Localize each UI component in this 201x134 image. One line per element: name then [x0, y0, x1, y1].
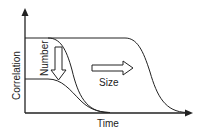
x-axis-arrowhead-icon	[185, 110, 193, 117]
diagram: Number Size Time Correlation	[0, 0, 201, 134]
size-right-arrow-icon	[92, 61, 133, 75]
number-down-arrow-icon	[51, 47, 66, 80]
curve-early-low	[25, 79, 110, 113]
x-axis-label: Time	[97, 118, 119, 129]
curve-early-high	[25, 38, 108, 113]
size-label: Size	[99, 77, 119, 88]
curve-late-high	[48, 38, 187, 113]
y-axis-arrowhead-icon	[22, 8, 29, 16]
diagram-canvas: Number Size Time Correlation	[0, 0, 201, 134]
number-label: Number	[39, 40, 50, 76]
y-axis-label: Correlation	[11, 51, 22, 100]
